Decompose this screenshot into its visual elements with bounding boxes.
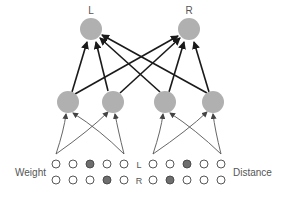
edge-h3-R <box>169 42 184 92</box>
edge-h2-L <box>96 42 108 91</box>
input-weight-R-5 <box>120 176 128 184</box>
edge-wr-h2 <box>115 114 124 154</box>
output-label-R: R <box>185 5 192 16</box>
distance-label: Distance <box>233 167 272 178</box>
input-weight-L-4 <box>103 160 111 168</box>
input-weight-L-2 <box>69 160 77 168</box>
output-layer: L R <box>80 5 200 40</box>
hidden-node-4 <box>202 91 224 113</box>
input-weight-L-3-active <box>86 160 94 168</box>
input-distance-L-3-active <box>183 160 191 168</box>
row-label-L: L <box>136 160 141 170</box>
input-distance-R-1 <box>149 176 157 184</box>
output-node-L <box>80 18 102 40</box>
hidden-to-output-edges <box>72 35 209 94</box>
input-distance-L-5 <box>217 160 225 168</box>
edge-h1-R <box>75 36 178 94</box>
input-weight-R-2 <box>69 176 77 184</box>
hidden-node-2 <box>102 91 124 113</box>
hidden-layer <box>57 91 224 113</box>
input-distance-R-5 <box>217 176 225 184</box>
hidden-node-3 <box>154 91 176 113</box>
input-distance-R-2-active <box>166 176 174 184</box>
output-label-L: L <box>88 5 94 16</box>
input-weight-R-1 <box>52 176 60 184</box>
edge-h1-L <box>72 42 87 92</box>
input-distance-R-4 <box>200 176 208 184</box>
input-weight-L-1 <box>52 160 60 168</box>
edge-h4-L <box>102 35 207 93</box>
input-weight-R-3 <box>86 176 94 184</box>
input-distance-R-3 <box>183 176 191 184</box>
input-distance-L-4 <box>200 160 208 168</box>
input-distance-L-2 <box>166 160 174 168</box>
input-weight-L-5 <box>120 160 128 168</box>
weight-label: Weight <box>15 167 46 178</box>
hidden-node-1 <box>57 91 79 113</box>
edge-dl-h4 <box>153 112 207 154</box>
neural-network-diagram: L R L R Weight Di <box>0 0 291 200</box>
input-weight-R-4-active <box>103 176 111 184</box>
input-distance-L-1 <box>149 160 157 168</box>
edge-h4-R <box>194 42 209 92</box>
output-node-R <box>178 18 200 40</box>
input-to-hidden-edges <box>56 112 221 154</box>
row-label-R: R <box>136 176 143 186</box>
